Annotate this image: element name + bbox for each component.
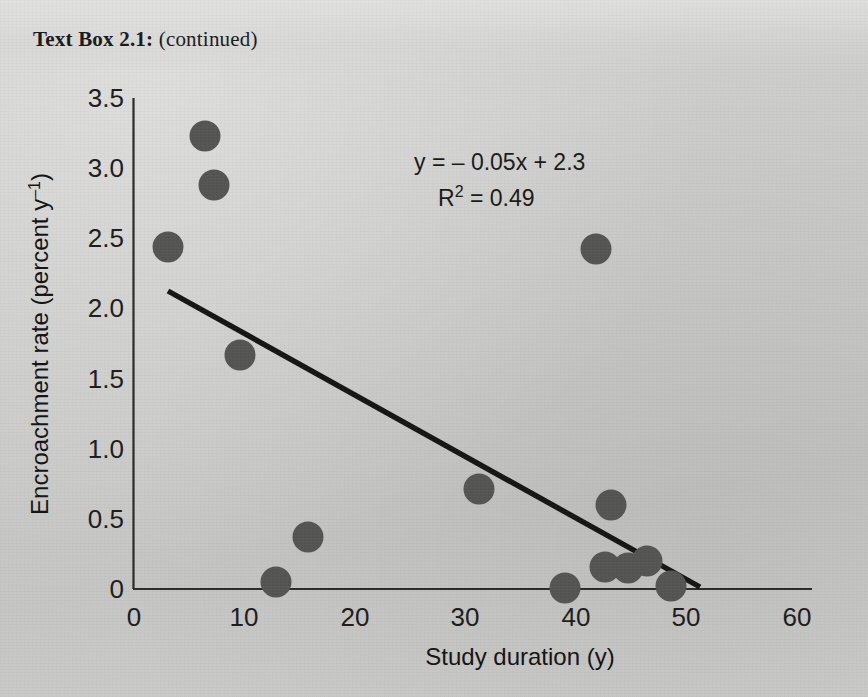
x-tick-label: 30 <box>451 602 480 632</box>
scatter-points <box>153 121 687 604</box>
x-tick-label: 10 <box>230 602 259 632</box>
scatter-chart-figure: 3.5 3.0 2.5 2.0 1.5 1.0 0.5 0 0 10 20 30… <box>0 60 868 680</box>
r-value-text: = 0.49 <box>470 185 535 211</box>
trend-line <box>168 291 700 587</box>
x-axis-tick-labels: 0 10 20 30 40 50 60 <box>127 602 812 632</box>
data-point <box>225 340 256 371</box>
regression-annotation: y = – 0.05x + 2.3 R2 = 0.49 <box>414 149 585 211</box>
y-axis-tick-labels: 3.5 3.0 2.5 2.0 1.5 1.0 0.5 0 <box>88 83 124 604</box>
y-axis-title-main: Encroachment rate (percent y <box>26 199 53 515</box>
x-tick-label: 40 <box>562 602 591 632</box>
data-point <box>656 571 687 602</box>
data-point <box>464 474 495 505</box>
x-tick-label: 50 <box>672 602 701 632</box>
r-letter: R <box>438 185 455 211</box>
y-tick-label: 3.5 <box>88 83 124 113</box>
x-tick-label: 60 <box>783 602 812 632</box>
page-root: Text Box 2.1: (continued) 3.5 3.0 2.5 2.… <box>0 0 868 697</box>
x-tick-label: 20 <box>341 602 370 632</box>
y-axis-title-exponent: –1 <box>26 181 43 199</box>
data-point <box>153 232 184 263</box>
r-exponent: 2 <box>455 183 464 200</box>
y-tick-label: 3.0 <box>88 153 124 183</box>
y-tick-label: 1.5 <box>88 364 124 394</box>
y-tick-label: 2.0 <box>88 293 124 323</box>
data-point <box>293 522 324 553</box>
x-tick-label: 0 <box>127 602 141 632</box>
y-tick-label: 1.0 <box>88 434 124 464</box>
y-axis-title-close: ) <box>26 173 53 181</box>
data-point <box>199 170 230 201</box>
data-point <box>581 234 612 265</box>
y-tick-label: 0.5 <box>88 504 124 534</box>
y-tick-label: 0 <box>110 574 124 604</box>
data-point <box>550 573 581 604</box>
text-box-caption: Text Box 2.1: (continued) <box>33 27 258 52</box>
regression-r-squared: R2 = 0.49 <box>438 183 535 211</box>
data-point <box>596 490 627 521</box>
x-axis-title: Study duration (y) <box>425 643 614 670</box>
regression-equation: y = – 0.05x + 2.3 <box>414 149 585 175</box>
chart-svg: 3.5 3.0 2.5 2.0 1.5 1.0 0.5 0 0 10 20 30… <box>0 60 868 680</box>
data-point <box>190 121 221 152</box>
y-tick-label: 2.5 <box>88 223 124 253</box>
data-point <box>261 567 292 598</box>
data-point <box>632 546 663 577</box>
y-axis-title: Encroachment rate (percent y–1) <box>26 173 53 515</box>
caption-label: Text Box 2.1: <box>33 27 153 51</box>
caption-continued: (continued) <box>159 27 258 51</box>
